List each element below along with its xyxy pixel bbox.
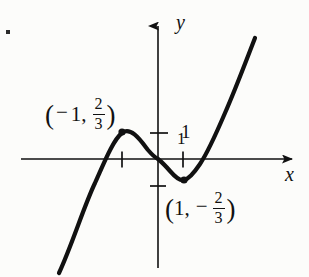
local-minimum-point-marker (180, 176, 187, 183)
min-label-open-paren: ( (165, 197, 174, 221)
max-label-x-value: 1 (71, 104, 82, 125)
min-label-close-paren: ) (227, 197, 236, 221)
min-label-comma: , (185, 198, 194, 219)
min-label-y-minus-sign: − (194, 196, 211, 217)
cubic-graph-figure: ( − 1 , 2 3 ) ( 1 , − 2 3 ) y x 1 1 (0, 0, 309, 277)
min-label-y-fraction: 2 3 (211, 190, 227, 226)
min-label-x-value: 1 (174, 198, 185, 219)
x-tick-one-label: 1 (177, 130, 186, 147)
max-label-y-fraction: 2 3 (91, 96, 107, 132)
cubic-curve (59, 38, 255, 273)
y-axis-label: y (176, 12, 185, 32)
max-label-y-denominator: 3 (93, 114, 105, 133)
max-label-close-paren: ) (107, 103, 116, 127)
max-label-x-minus-sign: − (54, 102, 71, 123)
max-label-open-paren: ( (45, 103, 54, 127)
max-label-y-numerator: 2 (93, 96, 105, 114)
local-minimum-point-label: ( 1 , − 2 3 ) (165, 190, 236, 226)
local-maximum-point-label: ( − 1 , 2 3 ) (45, 96, 116, 132)
graph-canvas (0, 0, 309, 277)
min-label-y-numerator: 2 (213, 190, 225, 208)
max-label-comma: , (81, 104, 90, 125)
min-label-y-denominator: 3 (213, 208, 225, 227)
local-maximum-point-marker (118, 128, 125, 135)
x-axis-label: x (285, 164, 294, 184)
